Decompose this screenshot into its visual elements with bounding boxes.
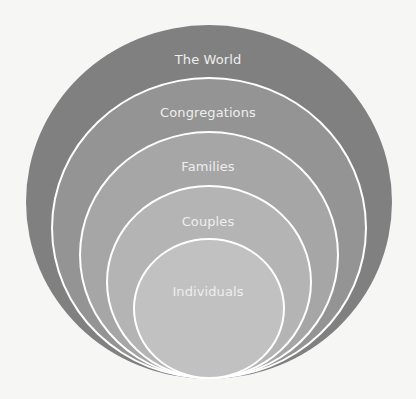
label-congregations: Congregations: [0, 105, 416, 121]
nested-circles-diagram: The World Congregations Families Couples…: [0, 0, 416, 399]
label-individuals: Individuals: [0, 284, 416, 300]
ring-individuals: [133, 238, 285, 379]
label-couples: Couples: [0, 214, 416, 230]
label-families: Families: [0, 159, 416, 175]
label-the-world: The World: [0, 52, 416, 68]
